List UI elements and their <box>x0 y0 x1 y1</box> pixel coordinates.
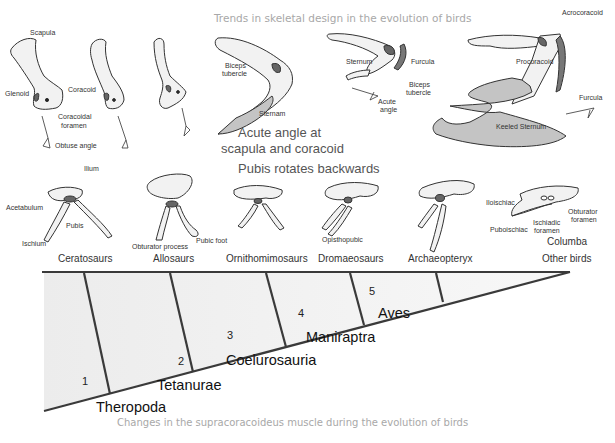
angle-3 <box>182 108 190 136</box>
label-obtuse-angle: Obtuse angle <box>55 142 97 149</box>
taxon-archaeopteryx: Archaeopteryx <box>408 253 472 264</box>
label-obturator-process: Obturator process <box>132 243 188 250</box>
label-ischium: Ischium <box>22 240 46 247</box>
label-coracoidal-foramen-2: foramen <box>61 122 87 129</box>
node-number-3: 3 <box>227 329 233 341</box>
taxon-other-birds: Other birds <box>542 253 591 264</box>
node-number-2: 2 <box>178 355 184 367</box>
caption-acute-angle-1: Acute angle at <box>238 125 321 140</box>
label-iloischiac: Iloischiac <box>486 199 515 206</box>
angle-2 <box>118 116 128 148</box>
label-obturator-foramen-1: Obturator <box>568 208 598 215</box>
pectoral-girdle-3 <box>154 38 186 108</box>
label-sternum: Sternum <box>346 58 372 65</box>
pelvis-heading: Pubis rotates backwards <box>238 161 380 176</box>
label-pubic-foot: Pubic foot <box>196 237 227 244</box>
label-ischiadic-foramen-1: Ischiadic <box>533 219 560 226</box>
label-coracoid: Coracoid <box>68 86 96 93</box>
label-ilium: Ilium <box>84 165 99 172</box>
label-biceps-tubercle-b2: tubercle <box>406 89 431 96</box>
label-furcula-2: Furcula <box>579 94 602 101</box>
label-sternam: Sternam <box>259 110 285 117</box>
taxon-dromaeosaurs: Dromaeosaurs <box>318 253 384 264</box>
pectoral-girdle-5 <box>327 34 406 80</box>
illustration-layer <box>0 0 615 443</box>
top-title: Trends in skeletal design in the evoluti… <box>214 12 471 24</box>
label-acetabulum: Acetabulum <box>6 204 43 211</box>
pelvis-allosaurs <box>147 174 198 240</box>
node-number-5: 5 <box>369 285 375 297</box>
obtuse-angle-1 <box>42 116 50 148</box>
label-biceps-tubercle-b1: Biceps <box>409 81 430 88</box>
clade-theropoda: Theropoda <box>96 399 166 415</box>
pectoral-girdle-4 <box>215 38 292 134</box>
label-puboischiac: Puboischiac <box>490 226 528 233</box>
taxon-allosaurs: Allosaurs <box>153 253 194 264</box>
pectoral-girdle-1 <box>11 38 63 109</box>
pelvis-archaeopteryx <box>418 181 474 252</box>
label-ischiadic-foramen-2: foramen <box>534 227 560 234</box>
label-acrocoracoid: Acrocoracoid <box>562 9 603 16</box>
label-furcula: Furcula <box>411 58 434 65</box>
caption-acute-angle-2: scapula and coracoid <box>221 141 344 156</box>
acute-angle-icon <box>352 88 378 100</box>
label-biceps-tubercle-2: tubercle <box>222 70 247 77</box>
label-coracoidal-foramen-1: Coracoidal <box>58 113 91 120</box>
taxon-ornithomimosaurs: Ornithomimosaurs <box>226 253 308 264</box>
label-scapula: Scapula <box>30 29 55 36</box>
label-obturator-foramen-2: foramen <box>571 216 597 223</box>
label-acute-angle-2: angle <box>380 106 397 113</box>
label-acute-angle-1: Acute <box>378 98 396 105</box>
clade-coelurosauria: Coelurosauria <box>226 352 316 368</box>
label-biceps-tubercle-1: Biceps <box>225 62 246 69</box>
clade-tetanurae: Tetanurae <box>157 377 222 393</box>
label-glenoid: Glenoid <box>5 90 29 97</box>
node-number-1: 1 <box>82 375 88 387</box>
taxon-ceratosaurs: Ceratosaurs <box>58 253 112 264</box>
label-procoracoid: Procoracoid <box>516 58 553 65</box>
pelvis-ornithomimosaurs <box>234 186 284 231</box>
acute-angle-icon-2 <box>566 108 594 118</box>
bottom-title: Changes in the supracoracoideus muscle d… <box>117 417 468 428</box>
label-pubis: Pubis <box>66 222 84 229</box>
pectoral-girdle-2 <box>91 39 125 109</box>
node-number-4: 4 <box>298 307 304 319</box>
label-columba: Columba <box>547 236 587 247</box>
label-opisthopubic: Opisthopubic <box>322 236 363 243</box>
clade-aves: Aves <box>378 305 410 321</box>
pelvis-dromaeosaurs <box>322 183 378 237</box>
pelvis-ceratosaurs <box>44 187 112 242</box>
label-keeled-sternum: Keeled Sternum <box>496 123 546 130</box>
clade-maniraptra: Maniraptra <box>306 329 375 345</box>
